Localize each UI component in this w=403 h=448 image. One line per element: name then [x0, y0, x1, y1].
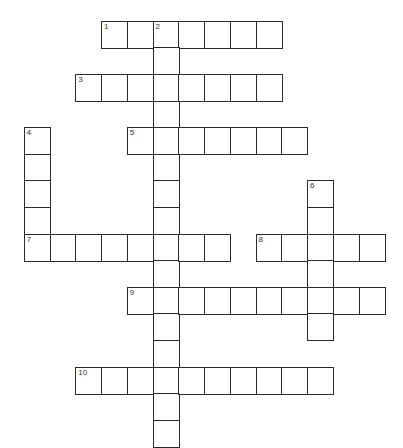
crossword-cell[interactable]: 4	[24, 127, 51, 155]
crossword-cell[interactable]	[230, 287, 257, 315]
crossword-cell[interactable]: 5	[127, 127, 154, 155]
crossword-cell[interactable]	[24, 180, 51, 208]
crossword-cell[interactable]	[230, 367, 257, 395]
crossword-cell[interactable]	[178, 127, 205, 155]
crossword-cell[interactable]	[153, 393, 180, 421]
crossword-cell[interactable]	[24, 154, 51, 182]
crossword-cell[interactable]	[50, 234, 77, 262]
crossword-cell[interactable]	[153, 180, 180, 208]
crossword-cell[interactable]	[307, 260, 334, 288]
crossword-cell[interactable]	[256, 127, 283, 155]
crossword-cell[interactable]	[153, 313, 180, 341]
clue-number: 1	[104, 23, 108, 31]
crossword-cell[interactable]	[127, 234, 154, 262]
crossword-cell[interactable]	[256, 21, 283, 49]
crossword-cell[interactable]: 7	[24, 234, 51, 262]
crossword-cell[interactable]	[178, 234, 205, 262]
crossword-cell[interactable]	[178, 287, 205, 315]
crossword-cell[interactable]	[153, 154, 180, 182]
clue-number: 5	[130, 129, 134, 137]
clue-number: 8	[259, 236, 263, 244]
clue-number: 3	[78, 76, 82, 84]
crossword-cell[interactable]	[307, 287, 334, 315]
crossword-cell[interactable]	[307, 313, 334, 341]
crossword-cell[interactable]	[153, 101, 180, 129]
crossword-cell[interactable]	[153, 74, 180, 102]
crossword-cell[interactable]	[333, 287, 360, 315]
crossword-cell[interactable]	[359, 234, 386, 262]
crossword-cell[interactable]	[101, 367, 128, 395]
crossword-cell[interactable]	[307, 207, 334, 235]
crossword-cell[interactable]: 6	[307, 180, 334, 208]
crossword-cell[interactable]	[127, 74, 154, 102]
crossword-cell[interactable]	[204, 127, 231, 155]
crossword-cell[interactable]	[153, 207, 180, 235]
crossword-cell[interactable]	[256, 367, 283, 395]
crossword-cell[interactable]	[256, 287, 283, 315]
crossword-cell[interactable]	[153, 47, 180, 75]
crossword-cell[interactable]	[24, 207, 51, 235]
crossword-cell[interactable]	[178, 21, 205, 49]
crossword-cell[interactable]	[281, 127, 308, 155]
crossword-cell[interactable]	[178, 74, 205, 102]
crossword-cell[interactable]	[204, 234, 231, 262]
clue-number: 10	[78, 369, 87, 377]
crossword-cell[interactable]	[153, 420, 180, 448]
crossword-cell[interactable]	[153, 127, 180, 155]
crossword-cell[interactable]	[281, 367, 308, 395]
crossword-cell[interactable]	[281, 234, 308, 262]
crossword-cell[interactable]	[153, 367, 180, 395]
crossword-cell[interactable]	[281, 287, 308, 315]
crossword-cell[interactable]	[230, 127, 257, 155]
crossword-cell[interactable]	[256, 74, 283, 102]
crossword-cell[interactable]	[204, 21, 231, 49]
clue-number: 9	[130, 289, 134, 297]
crossword-cell[interactable]: 8	[256, 234, 283, 262]
crossword-cell[interactable]	[307, 367, 334, 395]
crossword-cell[interactable]	[75, 234, 102, 262]
crossword-cell[interactable]	[178, 367, 205, 395]
crossword-cell[interactable]: 3	[75, 74, 102, 102]
crossword-cell[interactable]	[359, 287, 386, 315]
clue-number: 2	[156, 23, 160, 31]
clue-number: 6	[310, 182, 314, 190]
crossword-cell[interactable]	[101, 234, 128, 262]
crossword-cell[interactable]	[307, 234, 334, 262]
crossword-cell[interactable]	[204, 74, 231, 102]
clue-number: 4	[27, 129, 31, 137]
crossword-cell[interactable]	[127, 21, 154, 49]
crossword-cell[interactable]: 10	[75, 367, 102, 395]
crossword-cell[interactable]: 2	[153, 21, 180, 49]
crossword-cell[interactable]: 9	[127, 287, 154, 315]
crossword-cell[interactable]	[127, 367, 154, 395]
crossword-cell[interactable]: 1	[101, 21, 128, 49]
crossword-cell[interactable]	[101, 74, 128, 102]
crossword-cell[interactable]	[204, 367, 231, 395]
crossword-cell[interactable]	[230, 21, 257, 49]
crossword-cell[interactable]	[153, 340, 180, 368]
crossword-cell[interactable]	[153, 260, 180, 288]
crossword-cell[interactable]	[230, 74, 257, 102]
crossword-cell[interactable]	[153, 234, 180, 262]
clue-number: 7	[27, 236, 31, 244]
crossword-cell[interactable]	[204, 287, 231, 315]
crossword-cell[interactable]	[153, 287, 180, 315]
crossword-cell[interactable]	[333, 234, 360, 262]
